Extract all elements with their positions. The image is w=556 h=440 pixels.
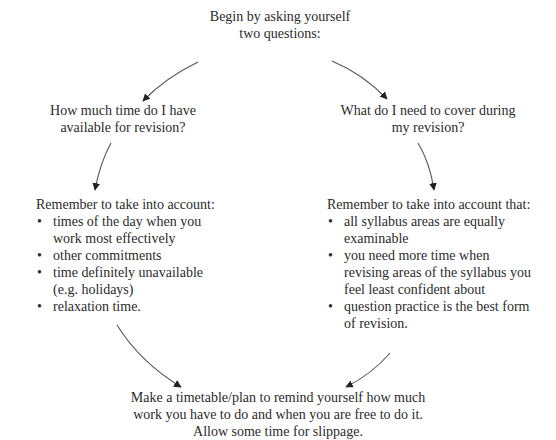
bullet-icon: • [328,247,333,264]
list-item-line: time definitely unavailable [53,264,286,281]
arrow-left-list-to-conclusion [117,325,181,387]
list-item-line: times of the day when you [53,213,286,230]
bullet-icon: • [328,213,333,230]
list-item: • times of the day when you work most ef… [36,213,286,247]
list-heading: Remember to take into account: [36,196,286,213]
list-item: • all syllabus areas are equally examina… [327,213,556,247]
list-item-line: revising areas of the syllabus you [344,264,556,281]
bullet-icon: • [328,298,333,315]
question-line: my revision? [300,119,556,136]
conclusion-line: work you have to do and when you are fre… [60,406,496,423]
start-node: Begin by asking yourself two questions: [150,8,410,42]
arrow-start-to-left-question [143,62,198,101]
list-item-line: work most effectively [53,230,286,247]
arrow-right-question-to-list [418,143,434,190]
list-item-line: (e.g. holidays) [53,281,286,298]
list-heading: Remember to take into account that: [327,196,556,213]
question-coverage-node: What do I need to cover during my revisi… [300,102,556,136]
arrow-start-to-right-question [332,61,387,99]
arrow-left-question-to-list [95,143,111,190]
time-considerations-list: Remember to take into account: • times o… [36,196,286,315]
list-item-line: relaxation time. [53,298,286,315]
question-line: available for revision? [0,119,246,136]
question-time-node: How much time do I have available for re… [0,102,246,136]
conclusion-line: Make a timetable/plan to remind yourself… [60,389,496,406]
list-item: • question practice is the best form of … [327,298,556,332]
list-item: • other commitments [36,247,286,264]
conclusion-node: Make a timetable/plan to remind yourself… [60,389,496,440]
list-item-line: all syllabus areas are equally [344,213,556,230]
list-item-line: examinable [344,230,556,247]
list-item-line: question practice is the best form [344,298,556,315]
list-item-line: feel least confident about [344,281,556,298]
question-line: What do I need to cover during [300,102,556,119]
start-line: Begin by asking yourself [150,8,410,25]
bullet-icon: • [37,264,42,281]
question-line: How much time do I have [0,102,246,119]
bullet-icon: • [37,298,42,315]
bullet-icon: • [37,247,42,264]
conclusion-line: Allow some time for slippage. [60,423,496,440]
coverage-considerations-list: Remember to take into account that: • al… [327,196,556,332]
arrow-right-list-to-conclusion [346,353,390,387]
list-item-line: other commitments [53,247,286,264]
start-line: two questions: [150,25,410,42]
list-item-line: of revision. [344,315,556,332]
bullet-icon: • [37,213,42,230]
list-item: • relaxation time. [36,298,286,315]
list-item: • time definitely unavailable (e.g. holi… [36,264,286,298]
list-item-line: you need more time when [344,247,556,264]
list-item: • you need more time when revising areas… [327,247,556,298]
